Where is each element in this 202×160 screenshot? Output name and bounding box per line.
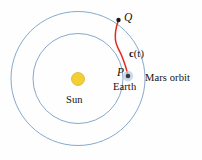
label-earth: Earth <box>113 82 136 93</box>
label-sun: Sun <box>66 95 83 106</box>
label-mars-orbit: Mars orbit <box>145 73 190 84</box>
target-point-q <box>116 18 120 22</box>
label-point-p: P <box>117 67 124 79</box>
sun-body <box>72 73 85 86</box>
label-point-q: Q <box>124 12 132 24</box>
orbit-diagram-figure: Q P c(t) Earth Sun Mars orbit <box>0 0 202 160</box>
label-trajectory-c-of-t: c(t) <box>129 49 144 60</box>
earth-point-p <box>126 74 131 79</box>
